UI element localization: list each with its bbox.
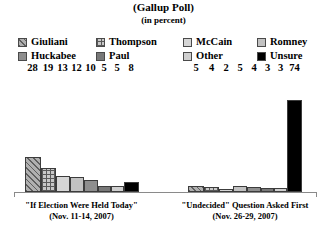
bar-column-huckabee-group-0: 10 bbox=[84, 74, 98, 192]
caption-group-0-date: (Nov. 11-14, 2007) bbox=[0, 211, 163, 222]
category-captions: "If Election Were Held Today" (Nov. 11-1… bbox=[0, 200, 327, 222]
bar-value-label: 5 bbox=[114, 62, 119, 73]
legend-item-thompson[interactable]: Thompson bbox=[96, 36, 183, 48]
bar-chart-plot-area: 2819131210558 542543374 bbox=[0, 74, 327, 192]
legend-row-2: Huckabee Paul Other Unsure bbox=[18, 49, 311, 63]
chart-legend: Giuliani Thompson McCain Romney Huckabee… bbox=[0, 35, 327, 63]
bar-column-mccain-group-1: 2 bbox=[219, 74, 233, 192]
legend-item-huckabee[interactable]: Huckabee bbox=[18, 50, 96, 62]
bar-group-undecided-asked-first: 542543374 bbox=[163, 74, 327, 192]
bar-value-label: 4 bbox=[251, 62, 256, 73]
caption-group-1-date: (Nov. 26-29, 2007) bbox=[163, 211, 327, 222]
legend-item-unsure[interactable]: Unsure bbox=[257, 50, 302, 62]
bar-column-giuliani-group-0: 28 bbox=[25, 74, 41, 192]
page-title: (Gallup Poll) bbox=[0, 1, 327, 14]
legend-item-mccain[interactable]: McCain bbox=[183, 36, 257, 48]
bar-value-label: 74 bbox=[289, 62, 300, 73]
legend-swatch-other-icon bbox=[183, 52, 192, 61]
bar-value-label: 8 bbox=[128, 62, 133, 73]
bar-value-label: 5 bbox=[237, 62, 242, 73]
bar-column-romney-group-1: 5 bbox=[233, 74, 247, 192]
bar-value-label: 19 bbox=[43, 62, 54, 73]
bar-value-label: 3 bbox=[278, 62, 283, 73]
chart-title-block: (Gallup Poll) (in percent) bbox=[0, 0, 327, 26]
bar-column-unsure-group-0: 8 bbox=[124, 74, 139, 192]
bar-value-label: 3 bbox=[265, 62, 270, 73]
bar-column-other-group-0: 5 bbox=[111, 74, 124, 192]
bar-thompson[interactable] bbox=[41, 168, 56, 192]
legend-label-mccain: McCain bbox=[196, 36, 232, 48]
legend-label-huckabee: Huckabee bbox=[31, 50, 76, 62]
caption-group-0-name: "If Election Were Held Today" bbox=[0, 200, 163, 211]
legend-swatch-paul-icon bbox=[96, 52, 105, 61]
bar-value-label: 10 bbox=[85, 62, 96, 73]
caption-group-1-name: "Undecided" Question Asked First bbox=[163, 200, 327, 211]
caption-group-0: "If Election Were Held Today" (Nov. 11-1… bbox=[0, 200, 163, 222]
legend-label-romney: Romney bbox=[270, 36, 307, 48]
legend-item-other[interactable]: Other bbox=[183, 50, 257, 62]
bar-column-romney-group-0: 12 bbox=[70, 74, 84, 192]
bar-value-label: 28 bbox=[27, 62, 38, 73]
caption-group-1: "Undecided" Question Asked First (Nov. 2… bbox=[163, 200, 327, 222]
bar-giuliani[interactable] bbox=[25, 157, 41, 192]
bar-value-label: 4 bbox=[209, 62, 214, 73]
legend-swatch-giuliani-icon bbox=[18, 38, 27, 47]
bar-column-mccain-group-0: 13 bbox=[56, 74, 70, 192]
legend-label-paul: Paul bbox=[109, 50, 129, 62]
bar-column-paul-group-0: 5 bbox=[98, 74, 111, 192]
bar-column-thompson-group-1: 4 bbox=[204, 74, 219, 192]
legend-label-giuliani: Giuliani bbox=[31, 36, 68, 48]
bar-column-giuliani-group-1: 5 bbox=[188, 74, 204, 192]
bar-value-label: 13 bbox=[57, 62, 68, 73]
bar-value-label: 5 bbox=[193, 62, 198, 73]
bar-column-unsure-group-1: 74 bbox=[287, 74, 302, 192]
legend-item-romney[interactable]: Romney bbox=[257, 36, 307, 48]
bar-series-group-0: 2819131210558 bbox=[25, 74, 139, 192]
bar-huckabee[interactable] bbox=[84, 180, 98, 193]
bar-value-label: 12 bbox=[71, 62, 82, 73]
legend-row-1: Giuliani Thompson McCain Romney bbox=[18, 35, 311, 49]
bar-romney[interactable] bbox=[70, 177, 84, 192]
bar-column-other-group-1: 3 bbox=[274, 74, 287, 192]
chart-baseline-axis bbox=[14, 192, 317, 197]
legend-swatch-mccain-icon bbox=[183, 38, 192, 47]
bar-unsure[interactable] bbox=[124, 182, 139, 192]
legend-swatch-unsure-icon bbox=[257, 52, 266, 61]
legend-label-unsure: Unsure bbox=[270, 50, 302, 62]
legend-swatch-thompson-icon bbox=[96, 38, 105, 47]
bar-unsure[interactable] bbox=[287, 100, 302, 193]
bar-column-huckabee-group-1: 4 bbox=[247, 74, 261, 192]
legend-item-giuliani[interactable]: Giuliani bbox=[18, 36, 96, 48]
legend-swatch-huckabee-icon bbox=[18, 52, 27, 61]
legend-item-paul[interactable]: Paul bbox=[96, 50, 183, 62]
legend-label-thompson: Thompson bbox=[109, 36, 157, 48]
bar-series-group-1: 542543374 bbox=[188, 74, 302, 192]
page-subtitle: (in percent) bbox=[0, 14, 327, 26]
bar-group-election-held-today: 2819131210558 bbox=[0, 74, 163, 192]
legend-label-other: Other bbox=[196, 50, 223, 62]
bar-mccain[interactable] bbox=[56, 176, 70, 192]
bar-column-thompson-group-0: 19 bbox=[41, 74, 56, 192]
bar-value-label: 5 bbox=[101, 62, 106, 73]
legend-swatch-romney-icon bbox=[257, 38, 266, 47]
bar-column-paul-group-1: 3 bbox=[261, 74, 274, 192]
bar-value-label: 2 bbox=[223, 62, 228, 73]
